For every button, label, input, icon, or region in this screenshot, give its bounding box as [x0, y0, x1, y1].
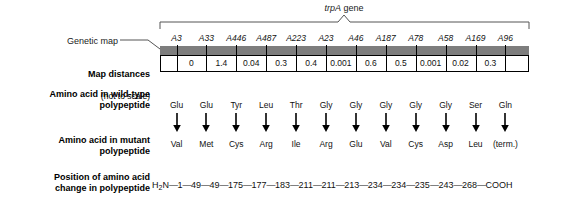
- wild-type-amino-acid: Gly: [350, 100, 363, 110]
- mutant-amino-acid: Glu: [349, 139, 362, 149]
- map-distance-value: 0.02: [452, 58, 469, 68]
- map-tick: [177, 45, 178, 72]
- chain-carboxyl-terminus: COOH: [485, 180, 512, 190]
- map-tick: [326, 45, 327, 72]
- mutation-arrow-icon: [261, 113, 271, 133]
- wild-type-row-label: Amino acid in wild-type polypeptide: [0, 89, 150, 111]
- mutation-arrow-icon: [201, 113, 211, 133]
- allele-label: A33: [199, 33, 214, 43]
- mutation-arrow-icon: [291, 113, 301, 133]
- map-tick: [296, 45, 297, 72]
- map-tick: [236, 45, 237, 72]
- map-distance-value: 0.3: [275, 58, 287, 68]
- mutation-arrow-icon: [381, 113, 391, 133]
- chain-position: 235: [415, 180, 430, 190]
- chain-dash: —: [182, 180, 191, 190]
- map-tick: [356, 45, 357, 72]
- chain-position: 49: [191, 180, 201, 190]
- chain-position: 211: [321, 180, 335, 190]
- table-left-border: [160, 55, 161, 72]
- chain-position: 234: [368, 180, 383, 190]
- mutation-arrow-icon: [231, 113, 241, 133]
- chain-position: 177: [251, 180, 266, 190]
- chain-dash: —: [336, 180, 345, 190]
- map-tick: [266, 45, 267, 72]
- map-distance-value: 0.001: [420, 58, 441, 68]
- mutant-amino-acid: Arg: [260, 139, 273, 149]
- allele-label: A3: [171, 33, 181, 43]
- mutant-amino-acid: Val: [380, 139, 392, 149]
- chain-position: 213: [344, 180, 359, 190]
- map-distance-value: 0.4: [305, 58, 317, 68]
- wild-type-amino-acid: Gly: [320, 100, 333, 110]
- allele-label: A78: [408, 33, 423, 43]
- map-tick: [476, 45, 477, 72]
- map-distance-value: 0.001: [330, 58, 351, 68]
- mutation-arrow-icon: [351, 113, 361, 133]
- chain-body: —1—49—49—175—177—183—211—211—213—234—234…: [169, 180, 513, 190]
- gene-bracket: [0, 0, 572, 30]
- mutant-row-label: Amino acid in mutant polypeptide: [0, 135, 150, 157]
- position-row-label: Position of amino acid change in polypep…: [0, 172, 150, 194]
- mutant-amino-acid: Cys: [229, 139, 244, 149]
- allele-label: A58: [438, 33, 453, 43]
- chain-position: 234: [391, 180, 406, 190]
- map-distance-value: 0.04: [243, 58, 260, 68]
- allele-label: A187: [376, 33, 396, 43]
- allele-label: A96: [498, 33, 513, 43]
- chain-dash: —: [406, 180, 415, 190]
- mutant-amino-acid: Val: [171, 139, 183, 149]
- mutation-arrow-icon: [411, 113, 421, 133]
- chain-dash: —: [219, 180, 228, 190]
- map-distance-value: 0: [189, 58, 194, 68]
- allele-label: A487: [256, 33, 276, 43]
- chain-dash: —: [453, 180, 462, 190]
- map-distance-value: 0.3: [484, 58, 496, 68]
- allele-label: A23: [318, 33, 333, 43]
- chain-position: 49: [209, 180, 219, 190]
- wild-type-amino-acid: Glu: [200, 100, 213, 110]
- trpa-gene-figure: trpA gene Genetic map Map distances (not…: [0, 0, 572, 202]
- wild-type-amino-acid: Gln: [499, 100, 512, 110]
- chain-position: 175: [228, 180, 243, 190]
- map-distance-value: 1.4: [215, 58, 227, 68]
- wild-type-amino-acid: Thr: [290, 100, 303, 110]
- map-tick: [416, 45, 417, 72]
- wild-type-amino-acid: Gly: [379, 100, 392, 110]
- chain-position: 243: [438, 180, 453, 190]
- mutation-arrow-icon: [441, 113, 451, 133]
- allele-label: A169: [466, 33, 486, 43]
- allele-label: A46: [348, 33, 363, 43]
- mutant-amino-acid: (term.): [493, 139, 518, 149]
- position-chain: H2N—1—49—49—175—177—183—211—211—213—234—…: [152, 180, 512, 190]
- mutation-arrow-icon: [172, 113, 182, 133]
- mutant-amino-acid: Met: [199, 139, 213, 149]
- mutant-amino-acid: Cys: [408, 139, 423, 149]
- map-distance-value: 0.6: [365, 58, 377, 68]
- wild-type-amino-acid: Glu: [170, 100, 183, 110]
- wild-type-amino-acid: Gly: [439, 100, 452, 110]
- table-right-border: [528, 55, 529, 72]
- mutation-arrow-icon: [471, 113, 481, 133]
- map-tick: [446, 45, 447, 72]
- map-distances-title: Map distances: [88, 69, 150, 79]
- allele-label: A223: [286, 33, 306, 43]
- table-top-border: [160, 55, 529, 56]
- chain-position: 268: [462, 180, 477, 190]
- wild-type-amino-acid: Ser: [469, 100, 482, 110]
- chain-dash: —: [359, 180, 368, 190]
- table-bottom-border: [160, 71, 529, 72]
- map-tick: [386, 45, 387, 72]
- chain-dash: —: [267, 180, 276, 190]
- map-distance-value: 0.5: [395, 58, 407, 68]
- mutant-amino-acid: Leu: [468, 139, 482, 149]
- genetic-map-bar: [160, 46, 529, 55]
- mutation-arrow-icon: [500, 113, 510, 133]
- wild-type-amino-acid: Leu: [259, 100, 273, 110]
- chain-amino-terminus: H2N: [152, 180, 169, 190]
- map-tick: [206, 45, 207, 72]
- mutant-amino-acid: Ile: [292, 139, 301, 149]
- wild-type-amino-acid: Tyr: [230, 100, 242, 110]
- chain-position: 211: [299, 180, 313, 190]
- allele-label: A446: [226, 33, 246, 43]
